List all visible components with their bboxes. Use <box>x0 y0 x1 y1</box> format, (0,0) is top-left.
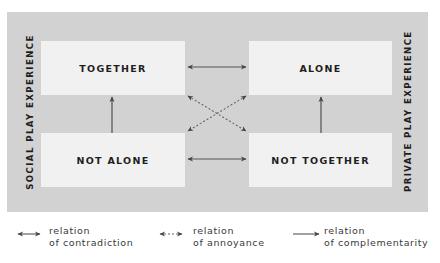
legend-contradiction-line1: relation <box>49 225 133 237</box>
legend-complementarity: relation of complementarity <box>324 225 428 249</box>
legend-contradiction: relation of contradiction <box>49 225 133 249</box>
legend-complementarity-line1: relation <box>324 225 428 237</box>
legend-contradiction-line2: of contradiction <box>49 237 133 249</box>
legend-annoyance-line2: of annoyance <box>193 237 265 249</box>
legend-annoyance: relation of annoyance <box>193 225 265 249</box>
relation-arrows <box>0 0 440 263</box>
legend-annoyance-line1: relation <box>193 225 265 237</box>
legend-complementarity-line2: of complementarity <box>324 237 428 249</box>
